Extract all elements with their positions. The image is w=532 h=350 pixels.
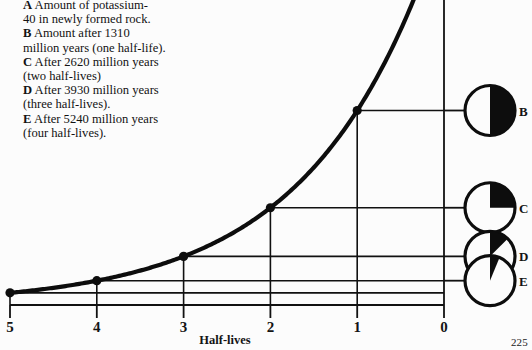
data-point-a [353,106,362,115]
x-axis-label: Half-lives [199,333,251,347]
x-tick-label: 1 [353,319,361,335]
gridlines-group [10,111,444,306]
pie-remaining-wedge [490,86,515,136]
pie-label-b: B [519,104,528,119]
page-number: 225 [511,336,528,348]
data-point-d [92,276,101,285]
pie-circle-b: B [444,86,528,136]
x-tick-label: 0 [440,319,448,335]
decay-curve-diagram: 543210 BCDE Half-lives [0,0,532,350]
pie-label-d: D [519,249,528,264]
decay-curve [10,0,479,293]
data-point-e [5,288,14,297]
data-point-c [179,252,188,261]
pie-label-e: E [519,274,528,289]
pie-remaining-wedge [490,183,515,208]
x-tick-label: 3 [180,319,188,335]
decay-curve-group [5,0,478,297]
pie-circle-c: C [444,183,528,233]
x-tick-label: 4 [93,319,101,335]
axes-group [10,0,444,318]
x-tick-label: 2 [267,319,275,335]
figure-page: A Amount of potassium- 40 in newly forme… [0,0,532,350]
pie-circles-group: BCDE [444,86,528,306]
data-point-b [266,203,275,212]
pie-label-c: C [519,201,528,216]
x-tick-label: 5 [6,319,14,335]
